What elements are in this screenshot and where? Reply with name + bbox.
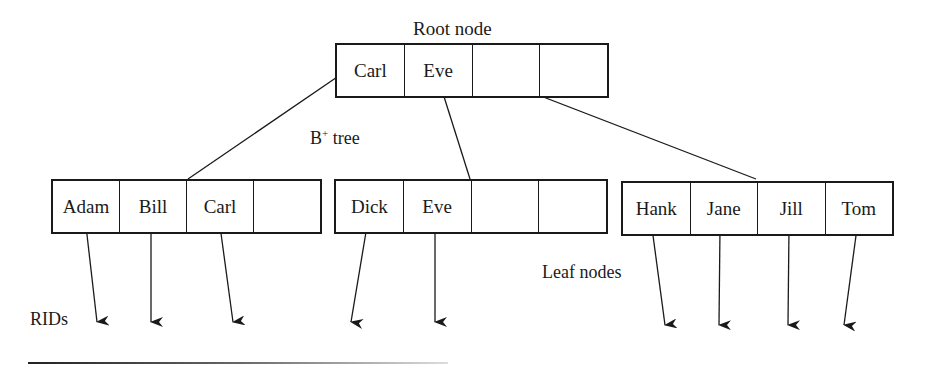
leaf-key-cell	[539, 181, 606, 232]
leaf-key-cell: Carl	[187, 181, 254, 232]
rid-arrow-dick	[351, 226, 367, 322]
leaf-node-1: Adam Bill Carl	[51, 179, 322, 234]
leaf-key-cell: Jane	[691, 183, 759, 234]
rids-label: RIDs	[30, 309, 68, 330]
leaf-key-cell: Adam	[53, 181, 120, 232]
leaf-key-cell: Hank	[623, 183, 691, 234]
leaf-key-cell: Eve	[404, 181, 472, 232]
rid-arrow-hank	[652, 228, 665, 325]
leaf-key-cell	[472, 181, 540, 232]
root-key-cell: Carl	[337, 45, 405, 96]
leaf-key-cell	[254, 181, 320, 232]
root-key-cell: Eve	[405, 45, 473, 96]
rid-arrow-tom	[844, 228, 857, 325]
leaf-key-cell: Bill	[120, 181, 187, 232]
root-key-cell	[540, 45, 607, 96]
tree-title: B+ tree	[310, 127, 360, 149]
rid-arrow-jill	[788, 228, 789, 325]
leaf-node-2: Dick Eve	[334, 179, 608, 234]
tree-title-rest: tree	[328, 128, 359, 148]
rid-arrow-jane	[719, 228, 720, 325]
root-node: Carl Eve	[335, 43, 609, 98]
leaf-node-3: Hank Jane Jill Tom	[621, 181, 894, 236]
leaf-key-cell: Jill	[758, 183, 826, 234]
leaf-key-cell: Tom	[826, 183, 893, 234]
leaf-key-cell: Dick	[336, 181, 404, 232]
rid-arrow-adam	[86, 226, 97, 322]
edge-root-to-leaf1	[188, 73, 343, 179]
leaf-nodes-label: Leaf nodes	[542, 262, 621, 283]
root-key-cell	[473, 45, 541, 96]
edge-root-to-leaf2	[440, 84, 470, 179]
bottom-rule-divider	[28, 362, 448, 364]
root-node-label: Root node	[413, 18, 492, 40]
tree-title-base: B	[310, 128, 322, 148]
rid-arrow-carl	[220, 226, 233, 322]
